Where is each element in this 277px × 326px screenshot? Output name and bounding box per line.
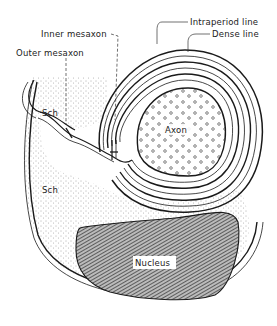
nucleus: Nucleus xyxy=(76,212,239,299)
axon-label: Axon xyxy=(165,125,187,135)
myelin-sheath-diagram: Nucleus Axon Intraperiod line Dense line xyxy=(0,0,277,326)
dense-line-label: Dense line xyxy=(212,29,259,39)
schwann-upper-label: Sch xyxy=(42,108,58,118)
outer-mesaxon-label: Outer mesaxon xyxy=(16,48,84,58)
axon: Axon xyxy=(137,88,225,176)
inner-mesaxon-label: Inner mesaxon xyxy=(41,29,107,39)
intraperiod-line-label: Intraperiod line xyxy=(190,17,258,27)
nucleus-label: Nucleus xyxy=(135,258,171,268)
schwann-lower-label: Sch xyxy=(42,185,58,195)
